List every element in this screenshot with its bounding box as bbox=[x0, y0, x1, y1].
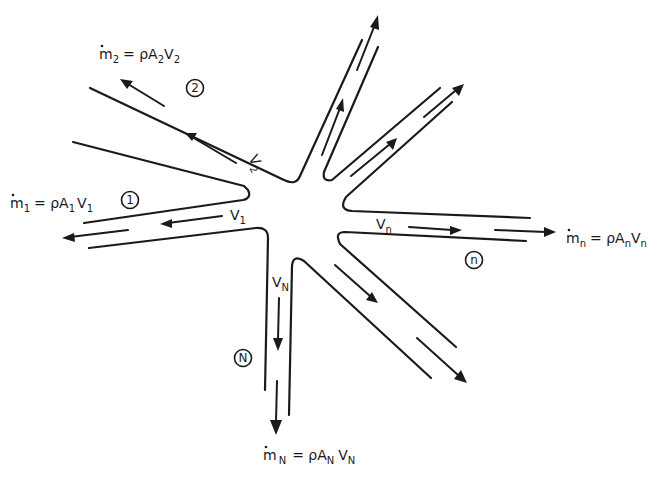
equation-branch-2: m2= ρA2V2 bbox=[99, 45, 180, 65]
dot-accent bbox=[265, 446, 268, 449]
svg-text:1: 1 bbox=[126, 193, 134, 207]
arrow-head-icon bbox=[160, 219, 172, 228]
circle-label-branch-1: 1 bbox=[122, 192, 139, 209]
arrow-head-icon bbox=[273, 338, 283, 351]
svg-text:2: 2 bbox=[191, 81, 199, 95]
svg-text:m2= ρA2V2: m2= ρA2V2 bbox=[99, 46, 180, 65]
equation-branch-n: mn= ρAnVn bbox=[566, 229, 647, 249]
arrow-head-icon bbox=[62, 233, 75, 242]
pipe-walls bbox=[73, 40, 530, 415]
velocity-label-branch-n: Vn bbox=[376, 216, 392, 235]
circle-label-branch-2: 2 bbox=[187, 80, 204, 97]
svg-text:m1= ρA1V1: m1= ρA1V1 bbox=[10, 195, 93, 214]
dot-accent bbox=[568, 229, 571, 232]
svg-text:mn= ρAnVn: mn= ρAnVn bbox=[566, 230, 647, 249]
equation-branch-N: mN= ρANVN bbox=[263, 446, 355, 466]
arrow-head-icon bbox=[452, 84, 464, 96]
flow-arrows bbox=[62, 15, 556, 435]
control-volume-diagram: m2= ρA2V2 2 V2 m1= ρA1V1 1 V1 Vn mn= ρAn… bbox=[0, 0, 668, 480]
dot-accent bbox=[12, 194, 15, 197]
circle-label-branch-N: N bbox=[235, 350, 252, 367]
arrow-head-icon bbox=[120, 79, 133, 89]
svg-text:mN= ρANVN: mN= ρANVN bbox=[263, 447, 355, 466]
arrow-head-icon bbox=[386, 138, 397, 150]
velocity-label-branch-N: VN bbox=[272, 274, 289, 293]
arrow-head-icon bbox=[370, 15, 379, 30]
svg-text:n: n bbox=[470, 253, 478, 267]
equation-branch-1: m1= ρA1V1 bbox=[10, 194, 93, 214]
dot-accent bbox=[101, 45, 104, 48]
wall-branchA-right bbox=[324, 47, 440, 180]
wall-lowerright-lower bbox=[289, 258, 431, 415]
svg-text:N: N bbox=[239, 351, 248, 365]
circle-label-branch-n: n bbox=[466, 252, 483, 269]
arrow-head-icon bbox=[336, 98, 344, 112]
arrow-head-icon bbox=[544, 227, 556, 237]
wall-branchn-lower bbox=[338, 232, 526, 347]
arrow-head-icon bbox=[270, 420, 282, 435]
arrow-head-icon bbox=[450, 226, 462, 235]
velocity-label-branch-1: V1 bbox=[230, 207, 246, 226]
